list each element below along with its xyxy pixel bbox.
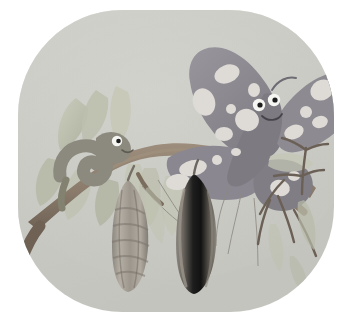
eye-pupil [272, 97, 277, 102]
butterfly-eye-left [253, 99, 265, 111]
wing-spot [215, 127, 233, 141]
eye-pupil [116, 139, 121, 144]
wing-spot [226, 104, 236, 114]
wing-spot [231, 148, 241, 156]
wing-spot [300, 106, 312, 118]
wing-spot [212, 155, 222, 165]
scene-svg [18, 10, 334, 312]
canvas-panel [18, 10, 334, 312]
wing-spot [248, 83, 260, 97]
caterpillar-eye [112, 136, 122, 146]
butterfly-eye-right [268, 94, 280, 106]
eye-pupil [257, 102, 262, 107]
illustration-stage: A spotted butterfly rests on a branch wh… [0, 0, 352, 323]
